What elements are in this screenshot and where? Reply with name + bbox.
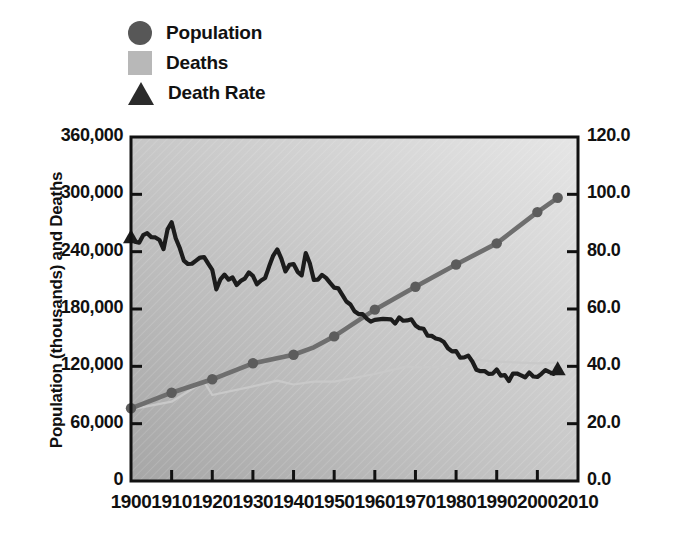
population-point-1940 [288, 350, 298, 360]
population-point-1910 [166, 387, 176, 397]
population-point-2000 [532, 207, 542, 217]
population-point-1990 [492, 238, 502, 248]
population-point-1970 [410, 282, 420, 292]
population-point-1980 [451, 259, 461, 269]
population-point-1920 [207, 374, 217, 384]
mortality-population-chart: Population Deaths Death Rate Population … [0, 0, 681, 545]
population-point-1960 [370, 304, 380, 314]
population-point-1950 [329, 331, 339, 341]
population-point-2005 [552, 193, 562, 203]
plot-area [0, 0, 681, 545]
population-point-1930 [248, 358, 258, 368]
